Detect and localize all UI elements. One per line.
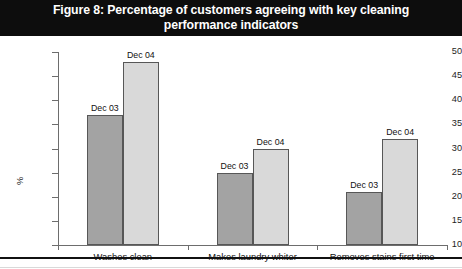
bar-value-label: Dec 04 xyxy=(370,127,430,137)
y-axis-label: % xyxy=(15,174,25,188)
x-tick-mark xyxy=(447,245,448,250)
y-tick-mark xyxy=(52,100,58,101)
y-tick-mark xyxy=(52,124,58,125)
x-tick-mark xyxy=(188,245,189,250)
figure-8-container: Figure 8: Percentage of customers agreei… xyxy=(0,0,462,269)
figure-title-band: Figure 8: Percentage of customers agreei… xyxy=(0,0,462,36)
bar-dec03[interactable] xyxy=(346,192,382,245)
y-tick-mark xyxy=(52,173,58,174)
figure-bottom-rule-secondary xyxy=(0,267,462,268)
bar-dec04[interactable] xyxy=(382,139,418,245)
y-tick-mark xyxy=(52,197,58,198)
y-tick-mark xyxy=(52,76,58,77)
bar-value-label: Dec 04 xyxy=(111,50,171,60)
x-tick-mark xyxy=(317,245,318,250)
y-tick-label: 45 xyxy=(410,70,462,80)
y-tick-mark xyxy=(52,221,58,222)
bar-dec04[interactable] xyxy=(123,62,159,245)
bar-value-label: Dec 04 xyxy=(241,137,301,147)
y-tick-mark xyxy=(52,149,58,150)
figure-title: Figure 8: Percentage of customers agreei… xyxy=(21,3,441,32)
y-axis-line xyxy=(58,52,59,245)
bar-dec03[interactable] xyxy=(217,173,253,245)
bar-dec03[interactable] xyxy=(87,115,123,245)
y-tick-mark xyxy=(52,52,58,53)
figure-title-line-2: performance indicators xyxy=(164,18,298,32)
x-tick-mark xyxy=(58,245,59,250)
x-axis-line xyxy=(58,245,447,246)
chart-plot-area: % 101520253035404550 Dec 03Dec 04Dec 03D… xyxy=(0,36,462,269)
bar-dec04[interactable] xyxy=(253,149,289,246)
figure-title-line-1: Figure 8: Percentage of customers agreei… xyxy=(53,3,409,17)
figure-bottom-rule xyxy=(0,257,462,259)
y-tick-label: 40 xyxy=(410,94,462,104)
y-tick-label: 50 xyxy=(410,46,462,56)
